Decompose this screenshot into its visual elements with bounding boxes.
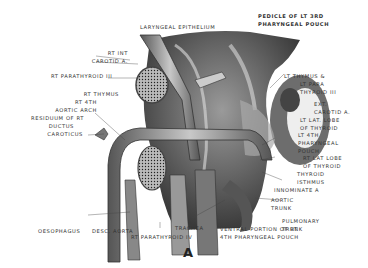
label-innominate: INNOMINATE A bbox=[274, 187, 319, 194]
figure-letter: A bbox=[183, 245, 193, 260]
label-rt-parathyroid-iii: RT PARATHYROID III bbox=[51, 73, 112, 80]
label-residuum-line2: DUCTUS bbox=[14, 123, 74, 130]
label-trachea: TRACHEA bbox=[175, 225, 204, 232]
label-rt-lat-lobe-line1: RT LAT LOBE bbox=[303, 155, 342, 162]
label-thyroid-isthmus-line1: THYROID bbox=[297, 171, 325, 178]
label-pulmonary-line1: PULMONARY bbox=[282, 218, 320, 225]
label-rt-thymus: RT THYMUS bbox=[59, 91, 119, 98]
label-thyroid-isthmus-line2: ISTHMUS bbox=[297, 179, 325, 186]
label-residuum-line1: RESIDUUM OF RT bbox=[4, 115, 84, 122]
label-aortic-trunk-line1: AORTIC bbox=[271, 197, 294, 204]
label-rt-4th-line1: RT 4TH bbox=[37, 99, 97, 106]
label-lt-thymus-line1: LT THYMUS & bbox=[284, 73, 325, 80]
label-ventral-portion-line2: 4TH PHARYNGEAL POUCH bbox=[220, 234, 299, 241]
label-rt-int-line2: CAROTID A. bbox=[68, 58, 128, 65]
label-lt-4th-line1: LT 4TH bbox=[298, 132, 319, 139]
label-aortic-trunk-line2: TRUNK bbox=[271, 205, 292, 212]
label-ventral-portion-line1: VENTRAL PORTION OF RT bbox=[220, 226, 298, 233]
label-rt-int-line1: RT INT bbox=[68, 50, 128, 57]
label-lt-4th-line2: PHARYNGEAL bbox=[298, 140, 339, 147]
label-ext-carotid-line2: CAROTID A. bbox=[314, 109, 350, 116]
label-lt-lat-lobe-line2: OF THYROID bbox=[300, 125, 338, 132]
label-pedicle-line1: PEDICLE OF LT 3RD bbox=[258, 13, 324, 20]
label-ext-carotid-line1: EXT. bbox=[314, 101, 327, 108]
label-residuum-line3: CAROTICUS bbox=[23, 131, 83, 138]
label-lt-thymus-line3: THYROID III bbox=[300, 89, 336, 96]
label-lt-thymus-line2: LT PARA bbox=[300, 81, 324, 88]
label-oesophagus: OESOPHAGUS bbox=[38, 228, 80, 235]
label-rt-lat-lobe-line2: OF THYROID bbox=[303, 163, 341, 170]
label-lt-4th-line3: POUCH bbox=[298, 148, 320, 155]
label-rt-4th-line2: AORTIC ARCH bbox=[37, 107, 97, 114]
label-rt-parathyroid-iv: RT PARATHYROID IV bbox=[131, 234, 192, 241]
label-laryngeal-epithelium: LARYNGEAL EPITHELIUM bbox=[140, 24, 215, 31]
label-lt-lat-lobe-line1: LT LAT. LOBE bbox=[300, 117, 340, 124]
label-desc-aorta: DESC. AORTA bbox=[92, 228, 133, 235]
label-pedicle-line2: PHARYNGEAL POUCH bbox=[258, 21, 329, 28]
